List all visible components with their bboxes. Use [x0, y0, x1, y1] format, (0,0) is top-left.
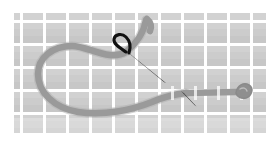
needle-thread-illustration [0, 0, 270, 142]
illustration-canvas: Illustration of a sewing needle threaded… [0, 0, 270, 142]
thread-straight-strand [186, 92, 236, 93]
thread-end-knot [236, 84, 252, 98]
